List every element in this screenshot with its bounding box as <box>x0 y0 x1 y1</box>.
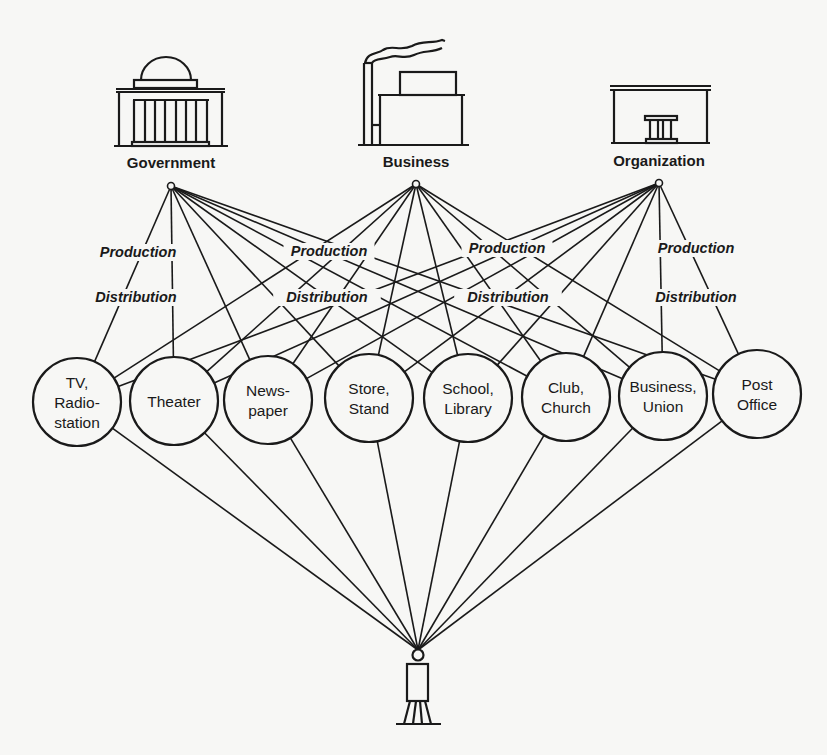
connection-line-government-7 <box>171 186 716 379</box>
flow-label-distribution: Distribution <box>286 289 367 305</box>
channel-label: News- <box>246 382 290 399</box>
source-label-organization: Organization <box>613 152 705 169</box>
channel-node: News-paper <box>224 356 312 444</box>
channel-label: Store, <box>348 380 389 397</box>
channel-node: Theater <box>130 357 218 445</box>
receiver-line-1 <box>204 433 418 650</box>
government-building-icon <box>114 57 228 146</box>
hub-organization <box>656 180 663 187</box>
hub-business <box>413 181 420 188</box>
channel-circle <box>424 354 512 442</box>
hub-government <box>168 183 175 190</box>
connection-line-organization-5 <box>584 183 659 357</box>
connection-line-organization-6 <box>659 183 662 352</box>
channel-label: Business, <box>629 378 696 395</box>
flow-label-distribution: Distribution <box>655 289 736 305</box>
channel-label: Radio- <box>54 394 100 411</box>
channel-circle <box>224 356 312 444</box>
flow-label-production: Production <box>291 243 368 259</box>
channel-label: School, <box>442 380 494 397</box>
channel-label: Club, <box>548 379 584 396</box>
flow-label-production: Production <box>658 240 735 256</box>
channel-circle <box>713 350 801 438</box>
channel-circle <box>619 352 707 440</box>
receiver-line-0 <box>112 428 418 650</box>
channel-label: paper <box>248 402 288 419</box>
channel-label: TV, <box>66 374 89 391</box>
channel-label: Theater <box>147 393 200 410</box>
channel-node: Business,Union <box>619 352 707 440</box>
receiver-line-3 <box>377 441 418 650</box>
flow-label-distribution: Distribution <box>467 289 548 305</box>
connection-line-business-7 <box>416 184 720 371</box>
channel-label: Union <box>643 398 684 415</box>
channel-circle <box>325 354 413 442</box>
connection-line-government-1 <box>171 186 173 357</box>
connection-line-business-3 <box>378 184 416 355</box>
channel-label: Library <box>444 400 492 417</box>
person-icon <box>396 650 441 725</box>
channel-node: Club,Church <box>522 353 610 441</box>
channel-label: Post <box>741 376 773 393</box>
receiver-line-6 <box>418 428 633 650</box>
channel-label: Office <box>737 396 777 413</box>
flow-label-production: Production <box>469 240 546 256</box>
connection-line-organization-3 <box>404 183 659 372</box>
receiver-line-2 <box>290 438 418 650</box>
connection-line-organization-7 <box>659 183 738 354</box>
connection-line-government-0 <box>95 186 171 362</box>
organization-building-icon <box>610 86 711 143</box>
channel-label: Church <box>541 399 591 416</box>
receiver-line-5 <box>418 435 544 650</box>
receiver-line-7 <box>418 421 722 650</box>
receiver-line-4 <box>418 441 460 650</box>
channel-node: PostOffice <box>713 350 801 438</box>
connection-line-business-2 <box>293 184 416 364</box>
source-label-business: Business <box>383 153 450 170</box>
connection-line-organization-2 <box>306 183 659 379</box>
channel-label: station <box>54 414 100 431</box>
channel-nodes: TV,Radio-stationTheaterNews-paperStore,S… <box>33 350 801 446</box>
source-label-government: Government <box>127 154 215 171</box>
factory-icon <box>358 40 469 145</box>
flow-label-production: Production <box>100 244 177 260</box>
connection-line-business-4 <box>416 184 458 355</box>
channel-node: TV,Radio-station <box>33 358 121 446</box>
connection-line-business-5 <box>416 184 541 361</box>
channel-node: School,Library <box>424 354 512 442</box>
flow-label-distribution: Distribution <box>95 289 176 305</box>
channel-circle <box>522 353 610 441</box>
communication-network-diagram: ProductionDistributionProductionDistribu… <box>0 0 827 755</box>
channel-node: Store,Stand <box>325 354 413 442</box>
channel-label: Stand <box>349 400 390 417</box>
